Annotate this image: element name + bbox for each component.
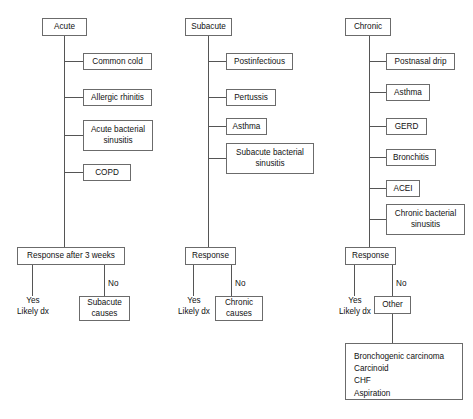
node-label: GERD: [395, 122, 419, 132]
node-label: Postnasal drip: [395, 57, 447, 67]
node-chronic-root[interactable]: Chronic: [345, 18, 391, 36]
edge-label-text: No: [108, 279, 118, 288]
node-chronic-cause-6[interactable]: Chronic bacterial sinusitis: [386, 204, 465, 235]
node-acute-cause-2[interactable]: Allergic rhinitis: [83, 89, 152, 106]
node-subacute-outcome-no[interactable]: Chronic causes: [215, 296, 263, 321]
node-chronic-cause-4[interactable]: Bronchitis: [386, 149, 436, 166]
node-acute-cause-4[interactable]: COPD: [83, 164, 131, 181]
edge-label-text: No: [235, 279, 245, 288]
node-acute-outcome-no[interactable]: Subacute causes: [79, 296, 130, 321]
node-label: Response: [192, 251, 229, 261]
node-label: Other: [382, 300, 402, 310]
subacute-edge-label-no: No: [235, 279, 245, 290]
other-causes-lines: Bronchogenic carcinoma Carcinoid CHF Asp…: [354, 351, 444, 400]
node-subacute-cause-4[interactable]: Subacute bacterial sinusitis: [226, 143, 314, 174]
node-subacute-cause-3[interactable]: Asthma: [226, 118, 267, 135]
node-subacute-cause-2[interactable]: Pertussis: [226, 89, 276, 106]
node-label: Asthma: [233, 122, 261, 132]
node-subacute-cause-1[interactable]: Postinfectious: [226, 53, 293, 70]
node-chronic-cause-2[interactable]: Asthma: [386, 84, 430, 101]
node-label: Common cold: [92, 57, 143, 67]
node-label: Chronic bacterial sinusitis: [390, 209, 461, 230]
node-label: Chronic causes: [219, 298, 259, 319]
node-acute-root[interactable]: Acute: [42, 18, 87, 36]
edge-label-text: No: [396, 279, 406, 288]
node-chronic-cause-3[interactable]: GERD: [386, 118, 427, 135]
other-cause-item: Aspiration: [354, 388, 444, 400]
node-label: Pertussis: [234, 93, 268, 103]
node-label: COPD: [95, 168, 119, 178]
node-label: Asthma: [394, 88, 422, 98]
node-label: Postinfectious: [234, 57, 285, 67]
flowchart-canvas: Acute Common cold Allergic rhinitis Acut…: [0, 0, 473, 419]
other-cause-item: Carcinoid: [354, 363, 444, 375]
other-cause-item: CHF: [354, 375, 444, 387]
chronic-edge-label-no: No: [396, 279, 406, 290]
node-label: ACEI: [393, 184, 412, 194]
node-acute-cause-3[interactable]: Acute bacterial sinusitis: [83, 120, 153, 151]
outcome-yes-detail: Likely dx: [2, 307, 64, 318]
node-chronic-other-causes-list[interactable]: Bronchogenic carcinoma Carcinoid CHF Asp…: [345, 343, 463, 400]
node-subacute-root[interactable]: Subacute: [185, 18, 232, 36]
node-acute-decision[interactable]: Response after 3 weeks: [17, 247, 125, 265]
node-label: Response: [352, 251, 389, 261]
other-cause-item: Bronchogenic carcinoma: [354, 351, 444, 363]
node-acute-cause-1[interactable]: Common cold: [83, 53, 152, 70]
outcome-yes-label: Yes: [2, 296, 64, 307]
node-label: Bronchitis: [393, 153, 429, 163]
node-chronic-cause-1[interactable]: Postnasal drip: [386, 53, 455, 70]
acute-edge-label-no: No: [108, 279, 118, 290]
node-chronic-cause-5[interactable]: ACEI: [386, 180, 420, 197]
acute-outcome-yes: Yes Likely dx: [2, 296, 64, 317]
node-label: Subacute bacterial sinusitis: [230, 148, 310, 169]
node-subacute-decision[interactable]: Response: [185, 247, 236, 265]
node-label: Response after 3 weeks: [27, 251, 115, 261]
node-label: Acute: [54, 22, 75, 32]
node-chronic-decision[interactable]: Response: [345, 247, 396, 265]
node-label: Subacute causes: [83, 298, 126, 319]
node-label: Acute bacterial sinusitis: [87, 125, 149, 146]
node-label: Subacute: [191, 22, 226, 32]
node-label: Chronic: [354, 22, 382, 32]
node-label: Allergic rhinitis: [91, 93, 144, 103]
node-chronic-outcome-other[interactable]: Other: [374, 296, 411, 314]
